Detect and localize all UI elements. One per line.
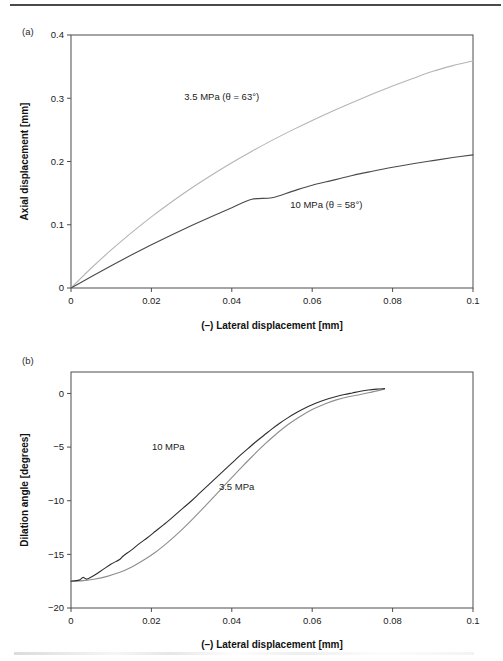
panel-tag: (b) (22, 355, 34, 366)
x-tick-label: 0.04 (223, 295, 242, 306)
x-tick-label: 0.02 (142, 295, 161, 306)
x-tick-label: 0.08 (383, 615, 402, 626)
y-tick-label: −5 (53, 441, 64, 452)
series-annotation-10-mpa: 10 MPa (θ = 58°) (290, 199, 362, 210)
page-bottom-artifact (14, 652, 474, 655)
x-axis-title: (–) Lateral displacement [mm] (201, 320, 343, 331)
y-axis-title: Dilation angle [degrees] (19, 433, 30, 546)
figure-page: (a)00.10.20.30.400.020.040.060.080.1Axia… (0, 0, 503, 661)
x-tick-label: 0.08 (383, 295, 402, 306)
panel-tag: (a) (22, 26, 34, 37)
series-curve-3-5-mpa (71, 61, 473, 288)
y-tick-label: −15 (48, 549, 64, 560)
x-tick-label: 0.1 (466, 615, 479, 626)
plot-frame (71, 372, 473, 608)
y-tick-label: 0.2 (51, 156, 64, 167)
series-curve-10-mpa (71, 155, 473, 288)
x-tick-label: 0.04 (223, 615, 242, 626)
x-tick-label: 0 (68, 295, 73, 306)
x-tick-label: 0.06 (303, 615, 322, 626)
chart-panel-a: (a)00.10.20.30.400.020.040.060.080.1Axia… (0, 18, 503, 336)
x-axis-title: (–) Lateral displacement [mm] (201, 639, 343, 650)
x-tick-label: 0.1 (466, 295, 479, 306)
x-tick-label: 0.06 (303, 295, 322, 306)
y-tick-label: 0 (59, 282, 64, 293)
y-tick-label: 0.3 (51, 93, 64, 104)
plot-frame (71, 35, 473, 288)
chart-panel-b: (b)−20−15−10−5000.020.040.060.080.1Dilat… (0, 350, 503, 655)
y-tick-label: −20 (48, 602, 64, 613)
y-tick-label: 0 (59, 388, 64, 399)
y-axis-title: Axial displacement [mm] (19, 103, 30, 221)
y-tick-label: 0.4 (51, 29, 64, 40)
page-top-rule (10, 4, 501, 6)
y-tick-label: −10 (48, 495, 64, 506)
chart-b-svg: (b)−20−15−10−5000.020.040.060.080.1Dilat… (0, 350, 503, 655)
series-annotation-3-5-mpa: 3.5 MPa (θ = 63°) (184, 91, 259, 102)
series-annotation-3-5-mpa: 3.5 MPa (219, 481, 255, 492)
chart-a-svg: (a)00.10.20.30.400.020.040.060.080.1Axia… (0, 18, 503, 336)
x-tick-label: 0 (68, 615, 73, 626)
y-tick-label: 0.1 (51, 219, 64, 230)
x-tick-label: 0.02 (142, 615, 161, 626)
series-annotation-10-mpa: 10 MPa (152, 441, 185, 452)
